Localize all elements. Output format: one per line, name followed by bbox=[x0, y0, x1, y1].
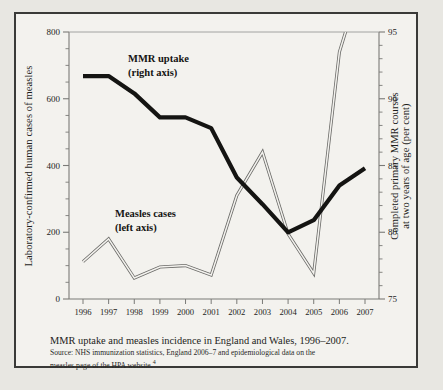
x-tick-label: 2001 bbox=[203, 307, 220, 317]
left-tick-label: 400 bbox=[47, 161, 61, 171]
right-axis-title-line2: at two years of age (per cent) bbox=[400, 103, 412, 229]
chart-canvas: 0200400600800 7580859095 199619971998199… bbox=[16, 14, 420, 370]
caption-source-line2: measles page of the HPA website.4 bbox=[50, 359, 390, 370]
right-tick-label: 75 bbox=[388, 294, 398, 304]
figure-page: 0200400600800 7580859095 199619971998199… bbox=[0, 0, 443, 390]
axis-lines bbox=[69, 32, 379, 299]
left-axis-title: Laboratory-confirmed human cases of meas… bbox=[23, 66, 34, 267]
annotation-mmr-line1: MMR uptake bbox=[128, 53, 189, 64]
x-tick-label: 1996 bbox=[74, 307, 92, 317]
x-tick-label: 1997 bbox=[100, 307, 118, 317]
x-tick-label: 1999 bbox=[151, 307, 168, 317]
left-axis-ticks bbox=[63, 32, 69, 299]
right-axis-title-line1: Completed primary MMR courses bbox=[389, 92, 400, 239]
x-tick-label: 2002 bbox=[228, 307, 245, 317]
x-axis-tick-labels: 1996199719981999200020012002200320042005… bbox=[74, 307, 374, 317]
right-tick-label: 95 bbox=[388, 27, 398, 37]
caption-source-text: measles page of the HPA website. bbox=[50, 360, 153, 369]
caption-footnote-marker: 4 bbox=[153, 359, 156, 365]
x-tick-label: 2004 bbox=[279, 307, 297, 317]
annotation-measles-line1: Measles cases bbox=[115, 208, 176, 219]
figure-sheet: 0200400600800 7580859095 199619971998199… bbox=[14, 12, 418, 368]
annotation-mmr-line2: (right axis) bbox=[128, 67, 178, 79]
x-tick-label: 2005 bbox=[305, 307, 322, 317]
x-tick-label: 1998 bbox=[126, 307, 143, 317]
annotation-measles-line2: (left axis) bbox=[115, 222, 157, 234]
caption-title: MMR uptake and measles incidence in Engl… bbox=[50, 334, 390, 347]
x-tick-label: 2006 bbox=[331, 307, 349, 317]
x-tick-label: 2000 bbox=[177, 307, 194, 317]
right-axis-ticks bbox=[379, 32, 385, 299]
x-tick-label: 2007 bbox=[356, 307, 374, 317]
left-axis-tick-labels: 0200400600800 bbox=[47, 27, 61, 304]
series-measles-cases bbox=[83, 14, 365, 278]
caption-source-line1: Source: NHS immunization statistics, Eng… bbox=[50, 348, 390, 358]
left-tick-label: 800 bbox=[47, 27, 61, 37]
figure-caption: MMR uptake and measles incidence in Engl… bbox=[50, 334, 390, 370]
left-tick-label: 600 bbox=[47, 94, 61, 104]
x-tick-label: 2003 bbox=[254, 307, 271, 317]
left-tick-label: 0 bbox=[56, 294, 61, 304]
left-tick-label: 200 bbox=[47, 227, 61, 237]
chart-svg: 0200400600800 7580859095 199619971998199… bbox=[16, 14, 420, 370]
x-axis-ticks bbox=[83, 299, 365, 304]
